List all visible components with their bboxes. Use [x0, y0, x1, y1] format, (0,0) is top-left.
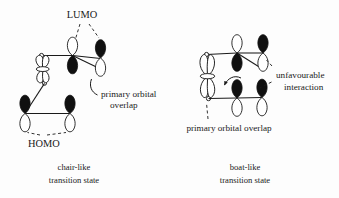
- boat-orbital-left-edge: [200, 55, 215, 98]
- primary-overlap-label-left-line2: overlap: [110, 100, 138, 110]
- unfavourable-label-line1: unfavourable: [276, 70, 324, 80]
- homo-fragment-frame: [25, 83, 70, 113]
- boat-lower-fragment-frame: [209, 98, 263, 99]
- chair-like-structure: LUMO HOMO primary orbital overlap chair-…: [20, 9, 157, 185]
- diagram-canvas: LUMO HOMO primary orbital overlap chair-…: [0, 0, 339, 198]
- primary-overlap-label-right: primary orbital overlap: [186, 123, 272, 133]
- homo-label: HOMO: [28, 138, 60, 149]
- lumo-label: LUMO: [67, 9, 98, 20]
- orbital-diagram-figure: LUMO HOMO primary orbital overlap chair-…: [0, 0, 339, 198]
- caption-left-line2: transition state: [49, 175, 100, 185]
- primary-overlap-label-left-line1: primary orbital: [101, 89, 157, 99]
- caption-right-line1: boat-like: [230, 162, 261, 172]
- homo-leader-lines: [28, 133, 67, 136]
- primary-overlap-pointer-left: [90, 79, 97, 95]
- lumo-leader-lines: [74, 24, 99, 44]
- primary-overlap-leader-right: [207, 103, 209, 119]
- lumo-orbital-left: [36, 55, 49, 83]
- caption-right-line2: transition state: [220, 175, 271, 185]
- boat-like-structure: unfavourable interaction primary orbital…: [186, 35, 324, 185]
- unfavourable-label-line2: interaction: [284, 82, 324, 92]
- caption-left-line1: chair-like: [58, 162, 91, 172]
